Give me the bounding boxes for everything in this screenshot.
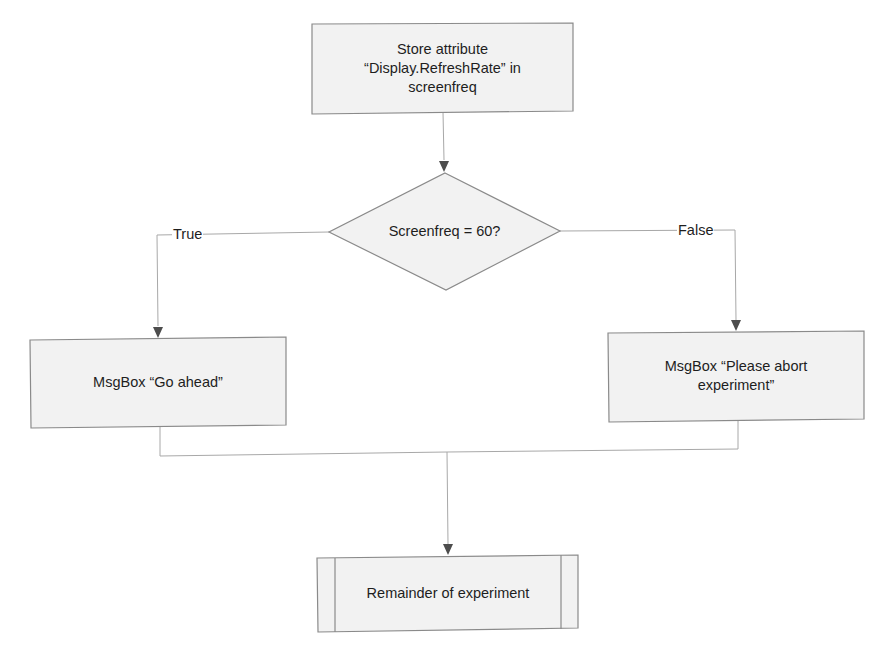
flowchart-canvas: Store attribute “Display.RefreshRate” in…	[0, 0, 893, 662]
node-abort-shape[interactable]	[608, 331, 864, 422]
arrowhead-icon	[153, 327, 163, 338]
edge-store-to-decision	[443, 112, 444, 160]
edge-label-true: True	[172, 226, 203, 242]
arrowhead-icon	[443, 544, 453, 555]
node-store-shape[interactable]	[312, 23, 573, 114]
node-decision-shape[interactable]	[329, 173, 560, 290]
edge-abort-to-merge	[447, 421, 738, 452]
node-go-ahead-shape[interactable]	[30, 337, 286, 428]
edge-label-false: False	[677, 222, 714, 238]
edge-decision-to-go-ahead	[157, 232, 329, 326]
node-remainder-shape[interactable]	[317, 555, 578, 632]
arrowhead-icon	[731, 320, 741, 331]
edge-decision-to-abort	[560, 230, 736, 320]
flowchart-svg	[0, 0, 893, 662]
edge-merge-to-remainder	[447, 452, 448, 544]
arrowhead-icon	[439, 161, 449, 172]
edge-go-ahead-to-merge	[160, 427, 447, 456]
